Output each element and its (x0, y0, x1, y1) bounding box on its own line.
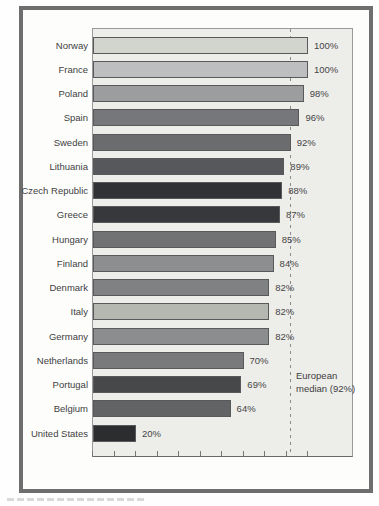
bar (93, 206, 280, 223)
category-label: Czech Republic (16, 182, 88, 199)
median-label: European median (92%) (296, 370, 358, 395)
axis-tick (221, 451, 222, 456)
category-label: Germany (16, 328, 88, 345)
category-label: Netherlands (16, 352, 88, 369)
value-label: 64% (237, 400, 256, 417)
value-label: 69% (247, 376, 266, 393)
value-label: 84% (280, 255, 299, 272)
axis-tick (264, 451, 265, 456)
category-label: Greece (16, 206, 88, 223)
category-label: Italy (16, 303, 88, 320)
bar (93, 352, 244, 369)
value-label: 100% (314, 37, 338, 54)
bar (93, 376, 241, 393)
bar (93, 425, 136, 442)
value-label: 100% (314, 61, 338, 78)
bar (93, 255, 274, 272)
axis-tick (286, 451, 287, 456)
median-label-line2: median (92%) (296, 383, 358, 396)
category-label: Hungary (16, 231, 88, 248)
category-label: Lithuania (16, 158, 88, 175)
value-label: 87% (286, 206, 305, 223)
value-label: 82% (275, 328, 294, 345)
value-label: 82% (275, 279, 294, 296)
value-label: 96% (305, 109, 324, 126)
value-label: 82% (275, 303, 294, 320)
value-label: 70% (250, 352, 269, 369)
faint-caption-marks (7, 498, 145, 501)
bar (93, 231, 276, 248)
axis-tick (135, 451, 136, 456)
bar (93, 61, 308, 78)
category-label: Spain (16, 109, 88, 126)
axis-tick (243, 451, 244, 456)
axis-tick (200, 451, 201, 456)
bar (93, 109, 299, 126)
bar (93, 400, 231, 417)
axis-tick (178, 451, 179, 456)
axis-tick (114, 451, 115, 456)
axis-tick (92, 451, 93, 456)
bar (93, 134, 291, 151)
value-label: 89% (290, 158, 309, 175)
value-label: 20% (142, 425, 161, 442)
value-label: 98% (310, 85, 329, 102)
category-label: Portugal (16, 376, 88, 393)
category-label: Norway (16, 37, 88, 54)
category-label: Sweden (16, 134, 88, 151)
bar (93, 158, 284, 175)
category-label: United States (16, 425, 88, 442)
category-label: Poland (16, 85, 88, 102)
bar (93, 328, 269, 345)
figure-page: Norway100%France100%Poland98%Spain96%Swe… (0, 0, 379, 506)
value-label: 88% (288, 182, 307, 199)
bar (93, 279, 269, 296)
median-label-line1: European (296, 370, 358, 383)
value-label: 85% (282, 231, 301, 248)
category-label: France (16, 61, 88, 78)
axis-tick (157, 451, 158, 456)
category-label: Belgium (16, 400, 88, 417)
category-label: Finland (16, 255, 88, 272)
axis-tick (307, 451, 308, 456)
category-label: Denmark (16, 279, 88, 296)
bar (93, 303, 269, 320)
value-label: 92% (297, 134, 316, 151)
bar (93, 37, 308, 54)
bar (93, 85, 304, 102)
bar (93, 182, 282, 199)
